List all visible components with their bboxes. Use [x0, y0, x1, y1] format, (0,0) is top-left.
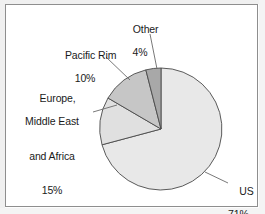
pie-label-pacific-rim-name: Pacific Rim — [65, 49, 116, 61]
pie-label-europe-line3: and Africa — [12, 151, 92, 163]
pie-label-europe-line1: Europe, — [40, 92, 76, 104]
pie-label-us-name: US — [239, 185, 253, 197]
leader-line-us — [205, 172, 228, 183]
pie-label-europe-percent: 15% — [12, 185, 92, 197]
pie-label-other-name: Other — [133, 23, 159, 35]
pie-label-europe-middle-east-africa: Europe, Middle East and Africa 15% — [12, 81, 92, 214]
pie-label-europe-line2: Middle East — [12, 116, 92, 128]
pie-label-us: US 71% — [228, 174, 260, 214]
pie-label-us-percent: 71% — [228, 209, 260, 214]
pie-chart-figure: Other 4% Pacific Rim 10% Europe, Middle … — [0, 0, 265, 214]
